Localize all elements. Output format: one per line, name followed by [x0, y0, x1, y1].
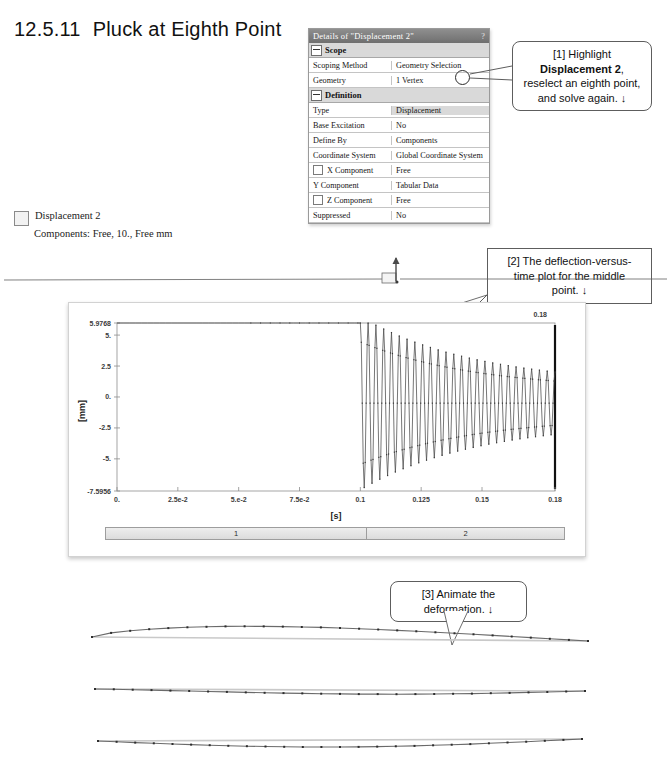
checkbox-icon[interactable]	[313, 195, 323, 205]
data-point-marker	[503, 430, 504, 431]
data-point-marker	[362, 403, 363, 404]
data-point-marker	[465, 449, 466, 450]
details-row[interactable]: Y ComponentTabular Data	[309, 178, 489, 193]
details-row[interactable]: Coordinate SystemGlobal Coordinate Syste…	[309, 148, 489, 163]
data-point-marker	[506, 403, 507, 404]
mesh-node-marker	[227, 745, 229, 747]
data-point-marker	[518, 428, 519, 429]
mesh-node-marker	[186, 626, 188, 628]
data-point-marker	[527, 437, 528, 438]
data-point-marker	[397, 403, 398, 404]
mesh-node-marker	[207, 691, 209, 693]
callout-1-bold: Displacement 2	[540, 63, 621, 75]
data-point-marker	[514, 377, 515, 378]
data-point-marker	[328, 323, 329, 324]
data-point-marker	[270, 323, 271, 324]
data-point-marker	[550, 425, 551, 426]
mesh-node-marker	[91, 636, 93, 638]
data-point-marker	[374, 347, 375, 348]
y-tick-label: -7.5956	[87, 488, 111, 495]
mesh-node-marker	[415, 630, 417, 632]
details-row-key: Base Excitation	[309, 121, 392, 130]
details-row-value[interactable]: Displacement	[392, 106, 489, 115]
data-point-marker	[260, 323, 261, 324]
data-point-marker	[484, 361, 485, 362]
data-point-marker	[447, 403, 448, 404]
mesh-node-marker	[528, 691, 530, 693]
checkbox-icon[interactable]	[313, 165, 323, 175]
data-point-marker	[372, 459, 373, 460]
legend-components: Components: Free, 10., Free mm	[34, 228, 234, 240]
details-row-value[interactable]: Geometry Selection	[392, 61, 489, 70]
mesh-node-marker	[129, 630, 131, 632]
data-point-marker	[417, 445, 418, 446]
details-row[interactable]: TypeDisplacement	[309, 103, 489, 118]
details-row-value[interactable]: Free	[392, 166, 489, 175]
data-point-marker	[547, 370, 548, 371]
details-row-value[interactable]: Free	[392, 196, 489, 205]
mesh-node-marker	[395, 745, 397, 747]
mesh-node-marker	[226, 691, 228, 693]
data-point-marker	[414, 341, 415, 342]
data-point-marker	[384, 350, 385, 351]
timeline-segment[interactable]: 1	[106, 528, 367, 539]
animation-deformed-shapes[interactable]	[0, 612, 667, 772]
details-row[interactable]: Z ComponentFree	[309, 193, 489, 208]
data-point-marker	[395, 471, 396, 472]
mesh-node-marker	[188, 690, 190, 692]
data-point-marker	[367, 344, 368, 345]
details-row-key: X Component	[309, 165, 392, 175]
data-point-marker	[488, 444, 489, 445]
question-mark-icon[interactable]: ?	[481, 32, 485, 41]
data-point-marker	[449, 453, 450, 454]
legend-label: Displacement 2	[35, 210, 101, 222]
details-row[interactable]: Base ExcitationNo	[309, 118, 489, 133]
details-row-value[interactable]: Global Coordinate System	[392, 151, 489, 160]
details-row[interactable]: X ComponentFree	[309, 163, 489, 178]
data-point-marker	[420, 403, 421, 404]
collapse-minus-icon[interactable]	[311, 90, 322, 101]
details-group-label: Scope	[325, 45, 346, 55]
data-point-marker	[502, 403, 503, 404]
data-point-marker	[444, 366, 445, 367]
data-point-marker	[289, 323, 290, 324]
details-row-value[interactable]: Components	[392, 136, 489, 145]
data-point-marker	[533, 403, 534, 404]
section-title-text: Pluck at Eighth Point	[93, 18, 282, 40]
mesh-node-marker	[263, 625, 265, 627]
data-point-marker	[523, 367, 524, 368]
data-point-marker	[551, 425, 552, 426]
timeline-segment[interactable]: 2	[367, 528, 564, 539]
details-group-row[interactable]: Definition	[309, 88, 489, 103]
details-row-value[interactable]: No	[392, 211, 489, 220]
data-point-marker	[521, 403, 522, 404]
details-row-value[interactable]: Tabular Data	[392, 181, 489, 190]
details-row[interactable]: Define ByComponents	[309, 133, 489, 148]
data-point-marker	[389, 403, 390, 404]
data-point-marker	[446, 367, 447, 368]
details-panel-title: Details of "Displacement 2"	[313, 31, 414, 41]
timeline-step-bar[interactable]: 12	[105, 527, 565, 540]
data-point-marker	[391, 332, 392, 333]
data-point-marker	[515, 366, 516, 367]
data-point-marker	[409, 447, 410, 448]
data-point-marker	[369, 403, 370, 404]
data-point-marker	[375, 324, 376, 325]
mesh-node-marker	[134, 742, 136, 744]
details-row[interactable]: SuppressedNo	[309, 208, 489, 223]
data-point-marker	[433, 441, 434, 442]
data-point-marker	[360, 322, 361, 323]
details-row-value[interactable]: No	[392, 121, 489, 130]
collapse-minus-icon[interactable]	[311, 45, 322, 56]
details-panel[interactable]: Details of "Displacement 2" ? ScopeScopi…	[308, 28, 490, 224]
deflection-vs-time-chart[interactable]: 0.18 5.97685.2.50.-2.5-5.-7.5956 0.2.5e-…	[68, 302, 586, 557]
mesh-node-marker	[320, 693, 322, 695]
data-point-marker	[445, 352, 446, 353]
data-point-marker	[455, 403, 456, 404]
data-point-marker	[473, 447, 474, 448]
details-row-value[interactable]: 1 Vertex	[392, 76, 489, 85]
mesh-node-marker	[433, 693, 435, 695]
details-group-row[interactable]: Scope	[309, 43, 489, 58]
data-point-marker	[478, 403, 479, 404]
displacement-legend: Displacement 2 Components: Free, 10., Fr…	[14, 210, 234, 240]
